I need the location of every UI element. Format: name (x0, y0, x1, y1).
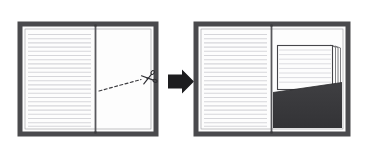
panel-before (20, 24, 158, 134)
diagram-canvas: Notebook cut-and-tuck instruction diagra… (0, 0, 368, 154)
step-arrow (168, 70, 194, 94)
spine-bottom-notch-before (94, 131, 97, 134)
panel-after (196, 24, 348, 134)
right-page-blank-before (97, 30, 150, 128)
tucked-pages-front-sheet (278, 46, 333, 90)
notebook-diagram-svg (0, 0, 368, 154)
spine-bottom-notch-after (270, 131, 273, 134)
left-page-rules-before (26, 30, 93, 128)
spine-top-notch-after (270, 24, 273, 27)
spine-top-notch-before (94, 24, 97, 27)
left-page-rules-after (202, 30, 269, 128)
